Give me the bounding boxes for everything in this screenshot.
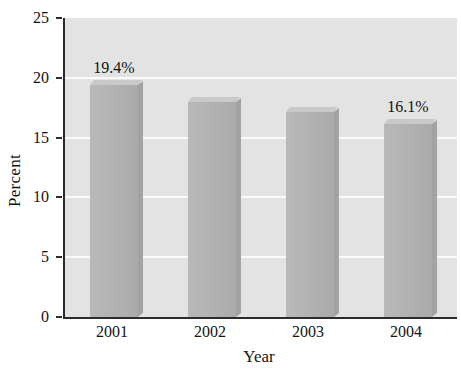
bar: [90, 85, 138, 317]
bar: [286, 112, 334, 317]
bar-face: [90, 85, 138, 317]
y-axis-title: Percent: [0, 0, 30, 340]
y-tick-mark: [56, 316, 62, 318]
y-tick-mark: [56, 77, 62, 79]
x-axis-title: Year: [63, 347, 455, 367]
y-tick-mark: [56, 17, 62, 19]
x-tick-label: 2003: [292, 323, 324, 341]
y-tick-mark: [56, 196, 62, 198]
bar-side-face: [334, 109, 339, 317]
y-tick-label: 15: [0, 129, 49, 147]
bar-face: [286, 112, 334, 317]
bar-side-face: [236, 98, 241, 317]
y-tick-mark: [56, 256, 62, 258]
bar-chart: Percent 0510152025 2001200220032004 19.4…: [0, 0, 461, 373]
bar-top-face: [188, 97, 240, 102]
bar-side-face: [432, 121, 437, 317]
y-tick-mark: [56, 137, 62, 139]
bar-value-label: 19.4%: [93, 59, 134, 77]
x-tick-label: 2002: [194, 323, 226, 341]
y-tick-label: 5: [0, 248, 49, 266]
bar-face: [384, 124, 432, 317]
bar-top-face: [90, 80, 142, 85]
y-tick-label: 10: [0, 188, 49, 206]
bar-side-face: [138, 81, 143, 317]
bar-face: [188, 102, 236, 317]
gridline: [65, 77, 457, 79]
y-tick-label: 20: [0, 69, 49, 87]
x-tick-label: 2001: [96, 323, 128, 341]
bar-top-face: [384, 119, 436, 124]
bar: [188, 102, 236, 317]
bar-value-label: 16.1%: [387, 98, 428, 116]
y-tick-label: 25: [0, 9, 49, 27]
bar: [384, 124, 432, 317]
bar-top-face: [286, 107, 338, 112]
y-tick-label: 0: [0, 308, 49, 326]
x-tick-label: 2004: [390, 323, 422, 341]
